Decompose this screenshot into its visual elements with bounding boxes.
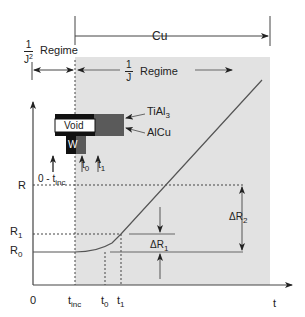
stack-bottom-strip: [55, 132, 95, 136]
tial3-text: TiAl: [147, 105, 166, 117]
t-range-sub: inc: [55, 178, 65, 187]
t-range-main: 0 - t: [38, 173, 55, 184]
t-range-label: 0 - tinc: [38, 174, 65, 187]
y-tick-r: R: [18, 180, 26, 191]
x-tick-tinc-sub: inc: [71, 300, 81, 309]
y-tick-r1-main: R: [10, 225, 18, 237]
x-tick-t1-sub: 1: [120, 300, 124, 309]
delta-r1-main: ΔR: [150, 239, 164, 250]
y-tick-r1-sub: 1: [18, 231, 22, 240]
y-tick-r0-main: R: [10, 244, 18, 256]
delta-r1-sub: 1: [164, 244, 168, 253]
x-tick-0-main: 0: [30, 294, 36, 306]
j-denominator: J: [125, 72, 133, 83]
void-label: Void: [64, 121, 83, 131]
delta-r2-sub: 2: [243, 216, 247, 225]
y-tick-r1: R1: [10, 226, 22, 240]
alcu-block: [94, 114, 124, 136]
j2-regime-label: Regime: [40, 45, 78, 56]
w-label: W: [68, 140, 77, 150]
j2-fraction: 1 J2: [24, 40, 33, 65]
x-tick-t0: t0: [101, 295, 109, 309]
stack-t1-sub: 1: [101, 164, 105, 173]
delta-r2-main: ΔR: [229, 211, 243, 222]
cu-label: Cu: [152, 30, 167, 42]
x-tick-t1: t1: [117, 295, 125, 309]
j-regime-label: Regime: [140, 66, 178, 77]
j2-denominator: J2: [24, 52, 33, 65]
stack-t1-label: t1: [98, 160, 105, 173]
alcu-label: AlCu: [147, 127, 171, 138]
x-tick-t0-sub: 0: [104, 300, 108, 309]
y-tick-r-main: R: [18, 179, 26, 191]
j2-numerator: 1: [24, 40, 33, 52]
j-numerator: 1: [125, 60, 133, 72]
y-tick-r0-sub: 0: [18, 250, 22, 259]
stack-t0-sub: 0: [85, 164, 89, 173]
y-tick-r0: R0: [10, 245, 22, 259]
j2-den-sup: 2: [29, 53, 33, 60]
delta-r1-label: ΔR1: [150, 240, 168, 253]
w-plug-gray: [76, 136, 86, 154]
tial3-label: TiAl3: [147, 106, 170, 120]
delta-r2-label: ΔR2: [229, 212, 247, 225]
x-tick-0: 0: [30, 295, 36, 306]
x-tick-tinc: tinc: [68, 295, 81, 309]
x-axis-label: t: [273, 298, 276, 309]
stack-t0-label: t0: [82, 160, 89, 173]
tial3-subscript: 3: [166, 111, 170, 120]
j-fraction: 1 J: [125, 60, 133, 83]
